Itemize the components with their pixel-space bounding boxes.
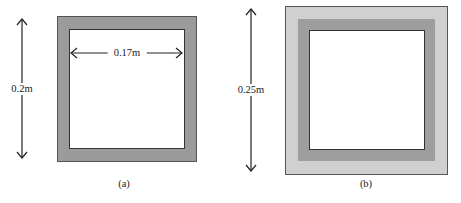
figure-b-height-label: 0.25m	[237, 84, 266, 96]
figure-b-inner-cavity	[310, 31, 425, 150]
figure-b-caption: (b)	[360, 178, 372, 189]
figure-b-graphics	[0, 0, 461, 203]
